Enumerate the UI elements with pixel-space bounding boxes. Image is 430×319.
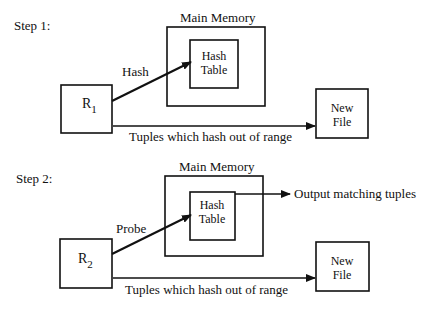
relation-r1-label: R1 xyxy=(82,96,97,115)
step-2: Step 2: Main Memory Hash Table Output ma… xyxy=(16,159,416,297)
hash-table-label-line1: Hash xyxy=(202,49,227,63)
new-file-label-line1: New xyxy=(331,254,354,268)
hash-table-label-line1: Hash xyxy=(200,198,225,212)
hash-arrow-label: Hash xyxy=(122,64,149,79)
out-of-range-label: Tuples which hash out of range xyxy=(125,282,288,297)
output-label: Output matching tuples xyxy=(294,186,416,201)
new-file-label-line1: New xyxy=(331,101,354,115)
probe-arrow-label: Probe xyxy=(116,221,147,236)
hash-join-diagram: Step 1: Main Memory Hash Table R1 Hash N… xyxy=(0,0,430,319)
hash-table-label-line2: Table xyxy=(199,212,225,226)
step-2-label: Step 2: xyxy=(16,171,52,186)
new-file-label-line2: File xyxy=(333,268,352,282)
hash-table-label-line2: Table xyxy=(201,63,227,77)
relation-r2-label: R2 xyxy=(78,251,93,270)
main-memory-label: Main Memory xyxy=(180,10,256,25)
new-file-label-line2: File xyxy=(333,115,352,129)
out-of-range-label: Tuples which hash out of range xyxy=(129,129,292,144)
main-memory-label: Main Memory xyxy=(179,159,255,174)
step-1-label: Step 1: xyxy=(14,18,50,33)
step-1: Step 1: Main Memory Hash Table R1 Hash N… xyxy=(14,10,368,144)
